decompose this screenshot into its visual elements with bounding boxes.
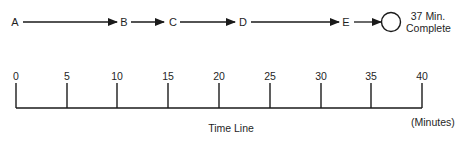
end-node-circle xyxy=(382,13,401,32)
node-d: D xyxy=(239,16,247,28)
tick-label-25: 25 xyxy=(264,70,276,82)
tick-label-30: 30 xyxy=(315,70,327,82)
completion-label: 37 Min. Complete xyxy=(406,10,450,34)
completion-status: Complete xyxy=(406,22,450,34)
tick-label-10: 10 xyxy=(111,70,123,82)
node-e: E xyxy=(342,16,349,28)
tick-label-20: 20 xyxy=(213,70,225,82)
tick-label-40: 40 xyxy=(416,70,428,82)
completion-time: 37 Min. xyxy=(406,10,450,22)
timeline-unit: (Minutes) xyxy=(411,116,455,128)
timeline-ticks xyxy=(16,83,422,108)
timeline-title: Time Line xyxy=(208,122,254,134)
tick-label-15: 15 xyxy=(162,70,174,82)
node-b: B xyxy=(120,16,127,28)
tick-label-0: 0 xyxy=(13,70,19,82)
node-c: C xyxy=(169,16,177,28)
tick-label-35: 35 xyxy=(365,70,377,82)
tick-label-5: 5 xyxy=(64,70,70,82)
node-a: A xyxy=(11,16,18,28)
